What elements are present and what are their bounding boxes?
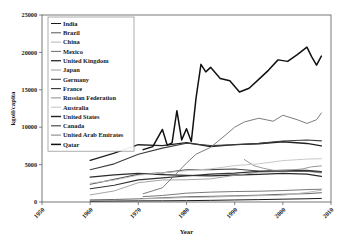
x-tick-label: 1980 <box>177 206 191 220</box>
x-axis: 1950196019701980199020002010 <box>32 202 335 219</box>
series-line-united-arab-emirates <box>143 113 321 194</box>
y-axis: 0500010000150002000025000 <box>22 11 42 205</box>
legend: IndiaBrazilChinaMexicoUnited KingdomJapa… <box>48 17 134 151</box>
y-tick-label: 25000 <box>22 11 37 18</box>
legend-label-australia[interactable]: Australia <box>63 104 89 111</box>
line-chart: 0500010000150002000025000kgoil/capita195… <box>0 0 345 242</box>
legend-label-united-arab-emirates[interactable]: United Arab Emirates <box>63 131 124 138</box>
y-tick-label: 20000 <box>22 49 37 56</box>
legend-label-france[interactable]: France <box>63 85 82 92</box>
x-tick-label: 2000 <box>273 206 287 220</box>
legend-label-japan[interactable]: Japan <box>63 66 80 73</box>
x-tick-label: 1970 <box>128 206 142 220</box>
legend-label-united-kingdom[interactable]: United Kingdom <box>63 57 109 64</box>
series-line-germany <box>90 169 321 184</box>
y-axis-title: kgoil/capita <box>9 91 16 126</box>
legend-label-united-states[interactable]: United States <box>63 113 100 120</box>
legend-label-china[interactable]: China <box>63 38 80 45</box>
y-tick-label: 5000 <box>25 161 37 168</box>
chart-container: 0500010000150002000025000kgoil/capita195… <box>0 0 345 242</box>
legend-label-india[interactable]: India <box>63 20 78 27</box>
x-tick-label: 2010 <box>321 206 335 220</box>
x-tick-label: 1950 <box>32 206 46 220</box>
legend-label-russian-federation[interactable]: Russian Federation <box>63 94 117 101</box>
x-tick-label: 1960 <box>80 206 94 220</box>
series-line-united-kingdom <box>90 173 321 177</box>
legend-label-germany[interactable]: Germany <box>63 76 90 83</box>
legend-label-mexico[interactable]: Mexico <box>63 48 83 55</box>
legend-label-canada[interactable]: Canada <box>63 122 85 129</box>
y-tick-label: 0 <box>34 198 37 205</box>
legend-label-qatar[interactable]: Qatar <box>63 141 79 148</box>
y-tick-label: 15000 <box>22 86 37 93</box>
series-line-russian-federation <box>244 160 321 171</box>
y-tick-label: 10000 <box>22 123 37 130</box>
legend-label-brazil[interactable]: Brazil <box>63 29 80 36</box>
x-tick-label: 1990 <box>225 206 239 220</box>
series-line-qatar <box>143 47 321 149</box>
x-axis-title: Year <box>180 228 194 235</box>
